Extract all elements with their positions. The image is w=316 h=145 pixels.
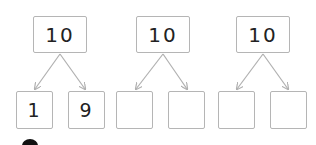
tree-3-right-box[interactable] (270, 91, 307, 129)
tree-3-top-box: 10 (236, 16, 290, 53)
tree-1-left-box[interactable]: 1 (16, 91, 53, 129)
tree-1-right-box[interactable]: 9 (68, 91, 105, 129)
tree-3-left-box[interactable] (218, 91, 255, 129)
tree-1-top-box: 10 (33, 16, 87, 53)
tree-2-right-box[interactable] (168, 91, 205, 129)
tree-2-left-box[interactable] (116, 91, 153, 129)
tree-2-top-box: 10 (136, 16, 190, 53)
